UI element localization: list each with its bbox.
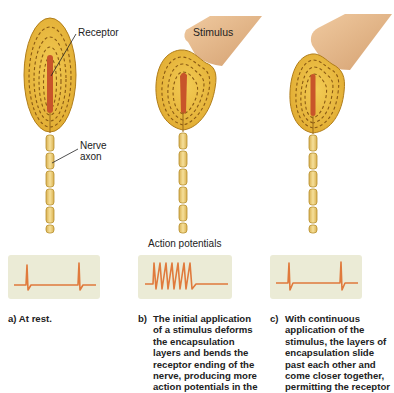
nerve-axon-label-line1: Nerve bbox=[80, 140, 107, 151]
trace-b bbox=[138, 255, 232, 299]
caption-c-line: With continuous bbox=[285, 313, 394, 324]
caption-b-line: the encapsulation bbox=[153, 336, 263, 347]
caption-b-line: The initial application bbox=[153, 313, 263, 324]
panel-a-corpuscle bbox=[24, 18, 78, 233]
caption-a: a) At rest. bbox=[8, 313, 52, 324]
caption-b-line: action potentials in the bbox=[153, 381, 263, 392]
caption-b-line: nerve, producing more bbox=[153, 370, 263, 381]
nerve-axon-label: Nerve axon bbox=[80, 140, 107, 162]
caption-b-text: The initial application of a stimulus de… bbox=[153, 313, 263, 393]
receptor-core-c bbox=[311, 74, 316, 116]
caption-c-tag: c) bbox=[270, 313, 279, 324]
trace-a bbox=[8, 255, 100, 299]
caption-c-line: past each other and bbox=[285, 359, 394, 370]
caption-a-tag: a) bbox=[8, 313, 19, 324]
caption-c-line: application of the bbox=[285, 324, 394, 335]
caption-c-line: come closer together, bbox=[285, 370, 394, 381]
caption-b-tag: b) bbox=[138, 313, 147, 324]
receptor-core-b bbox=[180, 73, 187, 114]
receptor-label: Receptor bbox=[78, 27, 119, 38]
caption-c-line: permitting the receptor bbox=[285, 381, 394, 392]
caption-b-line: receptor ending of the bbox=[153, 359, 263, 370]
nerve-axon-label-line2: axon bbox=[80, 151, 107, 162]
caption-b-line: of a stimulus deforms bbox=[153, 324, 263, 335]
trace-c bbox=[270, 255, 362, 299]
receptor-core-a bbox=[47, 55, 53, 113]
axon-a bbox=[46, 135, 54, 233]
caption-c-line: encapsulation slide bbox=[285, 347, 394, 358]
caption-c-line: stimulus, the layers of bbox=[285, 336, 394, 347]
stimulus-label: Stimulus bbox=[193, 26, 233, 38]
caption-a-text: At rest. bbox=[19, 313, 52, 324]
action-potentials-label: Action potentials bbox=[148, 238, 221, 249]
panel-c-corpuscle bbox=[290, 14, 392, 233]
axon-c bbox=[309, 135, 317, 233]
caption-c-text: With continuous application of the stimu… bbox=[285, 313, 394, 393]
caption-b-line: layers and bends the bbox=[153, 347, 263, 358]
panel-b-corpuscle bbox=[156, 16, 262, 233]
axon-leader-line bbox=[52, 149, 78, 163]
axon-b bbox=[179, 133, 187, 233]
